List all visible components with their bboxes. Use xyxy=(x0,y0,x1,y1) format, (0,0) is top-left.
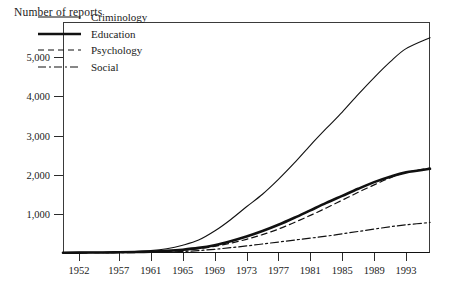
legend-item-education: Education xyxy=(37,26,147,43)
x-tick-label: 1981 xyxy=(300,265,321,276)
legend-item-social: Social xyxy=(37,59,147,76)
x-tick-label: 1993 xyxy=(396,265,417,276)
y-tick-label: 1,000 xyxy=(26,208,50,219)
x-tick-1989 xyxy=(374,253,375,261)
legend-label: Education xyxy=(91,28,136,40)
x-tick-label: 1965 xyxy=(172,265,193,276)
y-tick-1000 xyxy=(54,214,63,215)
x-tick-1961 xyxy=(151,253,152,261)
legend-label: Social xyxy=(91,61,119,73)
y-tick-3000 xyxy=(54,136,63,137)
x-tick-label: 1957 xyxy=(108,265,129,276)
x-tick-1957 xyxy=(119,253,120,261)
legend-item-psychology: Psychology xyxy=(37,42,147,59)
y-tick-label: 3,000 xyxy=(26,130,50,141)
legend-item-criminology: Criminology xyxy=(37,9,147,26)
legend-label: Criminology xyxy=(91,11,147,23)
y-tick-label: 4,000 xyxy=(26,91,50,102)
x-tick-1965 xyxy=(183,253,184,261)
legend-swatch-psychology-icon xyxy=(37,44,82,56)
y-tick-label: 2,000 xyxy=(26,169,50,180)
x-tick-label: 1977 xyxy=(268,265,289,276)
y-tick-2000 xyxy=(54,175,63,176)
x-tick-1977 xyxy=(278,253,279,261)
x-tick-1969 xyxy=(215,253,216,261)
x-tick-1973 xyxy=(247,253,248,261)
legend-swatch-education-icon xyxy=(37,28,82,40)
x-tick-1993 xyxy=(406,253,407,261)
legend-label: Psychology xyxy=(91,44,142,56)
x-tick-label: 1969 xyxy=(204,265,225,276)
x-tick-label: 1961 xyxy=(140,265,161,276)
x-tick-label: 1985 xyxy=(332,265,353,276)
x-tick-label: 1952 xyxy=(68,265,89,276)
legend-swatch-social-icon xyxy=(37,61,82,73)
chart-legend: CriminologyEducationPsychologySocial xyxy=(37,9,147,75)
x-tick-1985 xyxy=(342,253,343,261)
chart-figure: Number of reports 1,0002,0003,0004,0005,… xyxy=(0,0,458,290)
x-tick-label: 1973 xyxy=(236,265,257,276)
x-tick-1981 xyxy=(310,253,311,261)
legend-swatch-criminology-icon xyxy=(37,11,82,23)
y-tick-4000 xyxy=(54,96,63,97)
x-tick-label: 1989 xyxy=(364,265,385,276)
x-tick-1952 xyxy=(79,253,80,261)
series-line-education xyxy=(63,169,430,253)
